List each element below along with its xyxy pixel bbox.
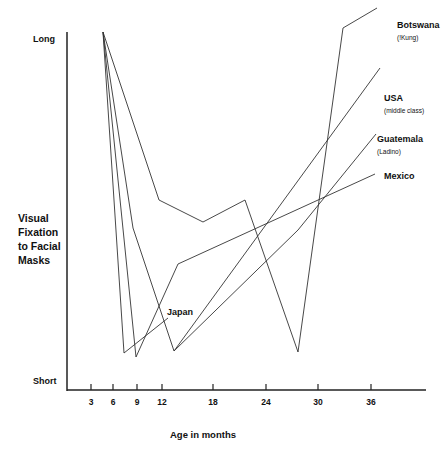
x-tick-label: 24 [256, 397, 276, 407]
label-botswana-sub: (!Kung) [397, 34, 418, 41]
y-label-long: Long [33, 34, 55, 44]
x-tick-label: 30 [308, 397, 328, 407]
series-botswana [103, 8, 377, 352]
label-guatemala-sub: (Ladino) [377, 148, 401, 155]
x-tick-label: 6 [103, 397, 123, 407]
label-usa-sub: (middle class) [384, 107, 424, 114]
label-guatemala: Guatemala [377, 134, 423, 144]
label-botswana: Botswana [397, 20, 440, 30]
x-axis-title: Age in months [170, 429, 236, 440]
y-title-line: Visual [18, 211, 88, 225]
series-guatemala [174, 134, 376, 351]
y-title-line: Fixation [18, 225, 88, 239]
x-tick-label: 18 [203, 397, 223, 407]
label-usa: USA [384, 93, 403, 103]
label-japan: Japan [167, 307, 193, 317]
y-axis-title: Visual Fixation to Facial Masks [18, 211, 88, 267]
x-tick-label: 12 [152, 397, 172, 407]
y-label-short: Short [33, 376, 57, 386]
x-tick-label: 9 [127, 397, 147, 407]
x-ticks [91, 384, 371, 390]
x-tick-label: 3 [81, 397, 101, 407]
y-title-line: to Facial [18, 239, 88, 253]
x-tick-label: 36 [361, 397, 381, 407]
y-title-line: Masks [18, 253, 88, 267]
label-mexico: Mexico [384, 171, 415, 181]
series-mexico [103, 32, 375, 357]
series-usa [103, 32, 380, 351]
